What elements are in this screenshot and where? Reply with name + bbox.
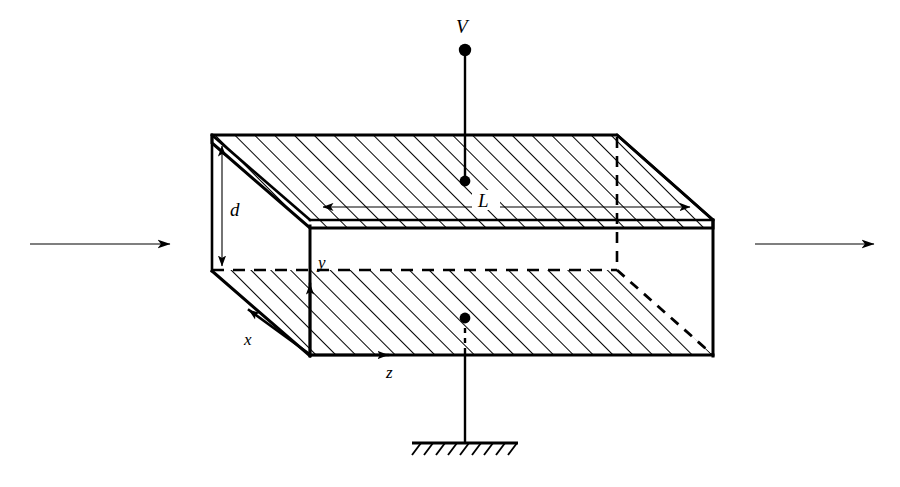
parallel-plate-diagram: d L y x z V	[0, 0, 900, 487]
axis-z-label: z	[385, 363, 393, 382]
dimension-d-label: d	[230, 199, 240, 220]
voltage-contact-dot	[460, 176, 471, 187]
voltage-terminal-dot	[459, 44, 471, 56]
axis-x-label: x	[243, 330, 252, 349]
figure-canvas: d L y x z V	[0, 0, 900, 487]
dimension-L-label: L	[477, 190, 489, 211]
axis-y-label: y	[316, 253, 326, 272]
